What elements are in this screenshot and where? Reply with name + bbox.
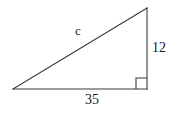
- right-angle-square-icon: [136, 78, 147, 89]
- hypotenuse-line: [13, 8, 147, 89]
- hypotenuse-label: c: [69, 24, 87, 37]
- vertical-leg-label: 12: [152, 41, 180, 55]
- right-triangle-figure: c 12 35: [0, 0, 183, 115]
- horizontal-leg-label: 35: [70, 93, 114, 107]
